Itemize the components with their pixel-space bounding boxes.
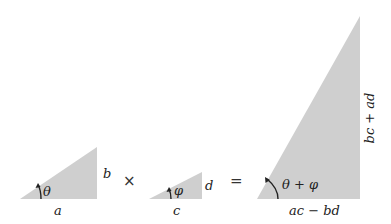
equals-operator: = [230, 172, 243, 190]
complex-multiplication-diagram: θ b a × φ d c = θ + φ ac − bd bc + ad [0, 0, 391, 224]
triangle-1-shape [20, 147, 97, 199]
triangle-product: θ + φ ac − bd bc + ad [257, 16, 377, 218]
base-label-c: c [173, 203, 181, 218]
base-label-a: a [54, 203, 62, 218]
height-label-d: d [205, 178, 213, 193]
triangle-2: φ d c [149, 172, 213, 218]
times-operator: × [123, 172, 136, 190]
angle-label-theta: θ [43, 184, 51, 199]
triangle-1: θ b a [20, 147, 111, 218]
angle-label-theta-plus-phi: θ + φ [282, 177, 319, 192]
height-label-bc-plus-ad: bc + ad [362, 93, 377, 144]
angle-label-phi: φ [174, 183, 184, 198]
base-label-ac-minus-bd: ac − bd [289, 203, 340, 218]
triangle-product-shape [257, 16, 360, 199]
height-label-b: b [103, 166, 111, 181]
